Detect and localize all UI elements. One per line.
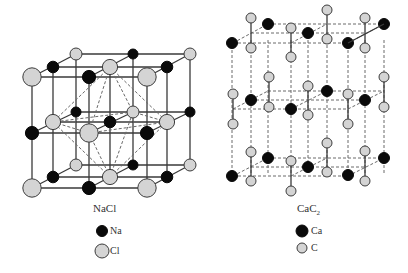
carbon-atom — [246, 43, 256, 53]
carbon-atom — [246, 176, 256, 186]
cl-legend-icon — [95, 244, 109, 258]
carbon-atom — [228, 89, 238, 99]
calcium-atom — [303, 162, 314, 173]
nacl-legend-cl-label: Cl — [110, 245, 119, 256]
carbon-atom — [286, 52, 296, 62]
carbon-atom — [228, 119, 238, 129]
cl-atom — [102, 169, 117, 184]
cac2-legend-c-label: C — [311, 242, 318, 253]
nacl-lattice — [23, 48, 196, 197]
cac2-title-text: CaC — [297, 202, 317, 214]
calcium-atom — [360, 95, 371, 106]
nacl-title: NaCl — [93, 202, 116, 214]
cl-atom — [23, 68, 41, 86]
c-legend-icon — [297, 243, 307, 253]
carbon-atom — [343, 119, 353, 129]
na-atom — [82, 181, 95, 194]
cl-atom — [70, 48, 82, 60]
na-atom — [161, 61, 173, 73]
na-atom — [47, 171, 59, 183]
calcium-atom — [263, 19, 274, 30]
legend-icons — [95, 225, 308, 258]
ca-legend-icon — [296, 225, 308, 237]
carbon-atom — [303, 81, 313, 91]
na-atom — [25, 126, 38, 139]
cl-atom — [138, 179, 156, 197]
carbon-atom — [303, 110, 313, 120]
carbon-atom — [379, 72, 389, 82]
carbon-atom — [322, 167, 332, 177]
cl-atom — [80, 124, 98, 142]
cac2-atoms — [227, 5, 390, 196]
calcium-atom — [343, 170, 354, 181]
crystal-structures-diagram — [0, 0, 408, 273]
cl-atom — [127, 106, 139, 118]
na-atom — [128, 49, 138, 59]
na-atom — [104, 116, 116, 128]
carbon-atom — [246, 13, 256, 23]
na-legend-icon — [97, 226, 108, 237]
na-atom — [82, 70, 95, 83]
calcium-atom — [227, 38, 238, 49]
octahedron-edge — [110, 122, 167, 177]
calcium-atom — [303, 28, 314, 39]
nacl-atoms — [23, 48, 196, 197]
carbon-atom — [246, 147, 256, 157]
cl-atom — [184, 159, 196, 171]
calcium-atom — [246, 95, 257, 106]
carbon-atom — [360, 176, 370, 186]
carbon-atom — [360, 13, 370, 23]
na-atom — [71, 107, 81, 117]
cl-atom — [159, 114, 174, 129]
na-atom — [161, 171, 173, 183]
nacl-legend-na-label: Na — [110, 225, 122, 236]
calcium-atom — [379, 153, 390, 164]
calcium-atom — [322, 86, 333, 97]
calcium-atom — [227, 171, 238, 182]
cl-atom — [138, 68, 156, 86]
calcium-atom — [263, 153, 274, 164]
cac2-legend-ca-label: Ca — [311, 225, 322, 236]
carbon-atom — [322, 34, 332, 44]
na-atom — [128, 160, 138, 170]
cac2-title: CaC2 — [297, 202, 320, 217]
calcium-atom — [286, 104, 297, 115]
carbon-atom — [322, 138, 332, 148]
cl-atom — [70, 159, 82, 171]
carbon-atom — [343, 89, 353, 99]
cl-atom — [45, 114, 60, 129]
carbon-atom — [286, 23, 296, 33]
cl-atom — [23, 179, 41, 197]
octahedron-edge — [53, 67, 110, 122]
carbon-atom — [264, 102, 274, 112]
cl-atom — [184, 48, 196, 60]
carbon-atom — [360, 146, 370, 156]
cac2-lattice — [227, 5, 390, 196]
carbon-atom — [322, 5, 332, 15]
carbon-atom — [286, 156, 296, 166]
carbon-atom — [360, 43, 370, 53]
na-atom — [140, 126, 153, 139]
carbon-atom — [264, 72, 274, 82]
carbon-atom — [379, 102, 389, 112]
cac2-title-subscript: 2 — [317, 209, 321, 217]
na-atom — [47, 61, 59, 73]
cl-atom — [102, 59, 117, 74]
na-atom — [185, 107, 195, 117]
carbon-atom — [286, 186, 296, 196]
